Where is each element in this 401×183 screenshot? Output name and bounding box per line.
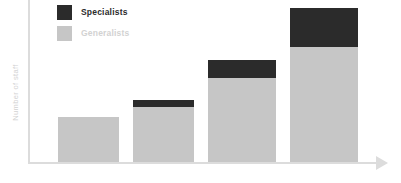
- bar-group-1[interactable]: [58, 117, 119, 162]
- bar-group-2[interactable]: [133, 100, 194, 162]
- bar-group-4[interactable]: [290, 8, 358, 162]
- plot-area: [0, 0, 401, 163]
- bar-segment-generalists[interactable]: [133, 107, 194, 162]
- bar-segment-generalists[interactable]: [58, 117, 119, 162]
- stacked-bar-chart: Number of staff Specialists Generalists: [0, 0, 401, 183]
- bar-segment-specialists[interactable]: [290, 8, 358, 47]
- bar-group-3[interactable]: [208, 60, 276, 162]
- bar-segment-specialists[interactable]: [133, 100, 194, 107]
- bar-segment-specialists[interactable]: [208, 60, 276, 78]
- bar-segment-generalists[interactable]: [208, 78, 276, 162]
- bar-segment-generalists[interactable]: [290, 47, 358, 162]
